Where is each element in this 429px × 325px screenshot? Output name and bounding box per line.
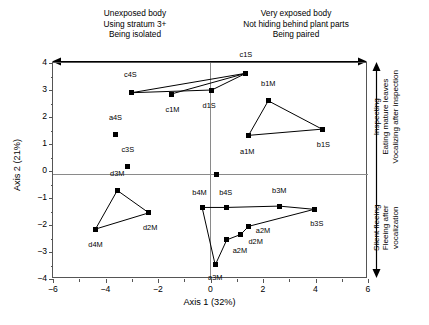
header-right-line-1: Very exposed body xyxy=(198,8,394,19)
y-tick-minor-3 xyxy=(51,185,54,186)
y-tick-2 xyxy=(49,225,53,226)
x-tick-minor-5 xyxy=(342,279,343,282)
polyline-b-a-triangle xyxy=(249,101,323,136)
side-label-bottom-line-2: Fleeing after xyxy=(381,174,391,282)
data-point-a1M xyxy=(246,133,251,138)
x-tick-0 xyxy=(53,279,54,283)
side-label-top-line-1: Inspecting xyxy=(372,63,382,171)
x-axis-title: Axis 1 (32%) xyxy=(52,297,367,307)
y-tick-label-4: 0 xyxy=(29,165,47,175)
y-tick-minor-4 xyxy=(51,158,54,159)
side-label-bottom-line-3: vocalization xyxy=(391,174,401,282)
x-tick-label-3: 0 xyxy=(196,284,226,294)
data-point-b3M xyxy=(277,204,282,209)
x-tick-label-1: −4 xyxy=(91,284,121,294)
x-tick-minor-0 xyxy=(79,279,80,282)
data-point-c4S xyxy=(129,90,134,95)
x-tick-label-2: −2 xyxy=(143,284,173,294)
y-tick-minor-6 xyxy=(51,104,54,105)
data-point-label-c1M: c1M xyxy=(165,106,179,114)
y-tick-label-1: −3 xyxy=(29,246,47,256)
data-point-d1S xyxy=(209,88,214,93)
data-point-b1M xyxy=(266,98,271,103)
data-point-unlabeled xyxy=(214,172,219,177)
scatter-plot-area: c4Sc1Md1Sc1Sb1Mb1Sa1Ma4Sc3Sd3Md2Md4Mb4Mb… xyxy=(52,62,367,278)
data-point-b4M xyxy=(200,205,205,210)
data-point-b3S xyxy=(312,207,317,212)
x-tick-label-0: −6 xyxy=(38,284,68,294)
x-tick-label-5: 4 xyxy=(301,284,331,294)
side-label-top-line-2: Eating mature leaves xyxy=(381,63,391,171)
x-tick-minor-3 xyxy=(237,279,238,282)
x-tick-minor-1 xyxy=(132,279,133,282)
x-tick-6 xyxy=(368,279,369,283)
data-point-b1S xyxy=(320,127,325,132)
x-tick-minor-4 xyxy=(289,279,290,282)
x-tick-4 xyxy=(263,279,264,283)
polyline-lower-right-chain xyxy=(202,206,314,265)
data-point-label-c4S: c4S xyxy=(124,71,137,79)
data-point-a2M xyxy=(224,237,229,242)
y-tick-label-0: −4 xyxy=(29,273,47,283)
data-point-label-b3S: b3S xyxy=(310,220,323,228)
y-tick-1 xyxy=(49,252,53,253)
data-point-label-d4M: d4M xyxy=(88,241,102,249)
y-tick-minor-5 xyxy=(51,131,54,132)
y-tick-minor-0 xyxy=(51,266,54,267)
y-tick-8 xyxy=(49,63,53,64)
x-tick-minor-2 xyxy=(184,279,185,282)
data-point-d2M xyxy=(146,210,151,215)
data-point-label-a2M: a2M xyxy=(256,227,270,235)
y-tick-minor-1 xyxy=(51,239,54,240)
polyline-c-group-upper xyxy=(132,73,246,92)
data-point-label-b4M: b4M xyxy=(192,189,206,197)
data-point-label-b1S: b1S xyxy=(317,141,330,149)
y-tick-minor-7 xyxy=(51,77,54,78)
data-point-c3S xyxy=(125,164,130,169)
header-right-annotation: Very exposed bodyNot hiding behind plant… xyxy=(198,8,394,40)
data-point-label-b3M: b3M xyxy=(272,187,286,195)
y-tick-label-3: −1 xyxy=(29,192,47,202)
data-point-d2M xyxy=(238,232,243,237)
data-point-d3M xyxy=(115,188,120,193)
side-label-bottom-line-1: Silent fleeing xyxy=(372,174,382,282)
x-tick-2 xyxy=(158,279,159,283)
data-point-label-d2M: d2M xyxy=(143,224,157,232)
data-point-label-b4S: b4S xyxy=(219,189,232,197)
data-point-label-d2M: d2M xyxy=(248,238,262,246)
y-axis-title: Axis 2 (21%) xyxy=(12,105,22,225)
x-tick-1 xyxy=(106,279,107,283)
y-tick-3 xyxy=(49,198,53,199)
y-tick-label-5: 1 xyxy=(29,138,47,148)
y-tick-0 xyxy=(49,279,53,280)
data-point-label-d3M: d3M xyxy=(110,170,124,178)
data-point-b4S xyxy=(224,205,229,210)
x-tick-3 xyxy=(211,279,212,283)
data-point-label-a2M: a2M xyxy=(233,247,247,255)
y-tick-minor-2 xyxy=(51,212,54,213)
header-right-line-2: Not hiding behind plant parts xyxy=(198,19,394,30)
data-point-c1S xyxy=(243,71,248,76)
data-point-label-a4S: a4S xyxy=(109,114,122,122)
data-point-label-a1M: a1M xyxy=(240,148,254,156)
y-tick-6 xyxy=(49,117,53,118)
data-point-c1M xyxy=(169,92,174,97)
y-tick-label-8: 4 xyxy=(29,57,47,67)
y-tick-5 xyxy=(49,144,53,145)
data-point-label-c1S: c1S xyxy=(240,51,253,59)
y-tick-label-2: −2 xyxy=(29,219,47,229)
data-point-a3M xyxy=(213,262,218,267)
data-point-a4S xyxy=(113,132,118,137)
polyline-d-triangle xyxy=(96,190,149,229)
x-tick-5 xyxy=(316,279,317,283)
data-point-label-c3S: c3S xyxy=(121,146,134,154)
data-point-label-b1M: b1M xyxy=(261,80,275,88)
data-point-d4M xyxy=(93,227,98,232)
header-right-line-3: Being paired xyxy=(198,29,394,40)
y-tick-label-6: 2 xyxy=(29,111,47,121)
data-point-a2M xyxy=(246,224,251,229)
data-point-label-d1S: d1S xyxy=(203,102,216,110)
y-tick-4 xyxy=(49,171,53,172)
y-tick-label-7: 3 xyxy=(29,84,47,94)
y-tick-7 xyxy=(49,90,53,91)
